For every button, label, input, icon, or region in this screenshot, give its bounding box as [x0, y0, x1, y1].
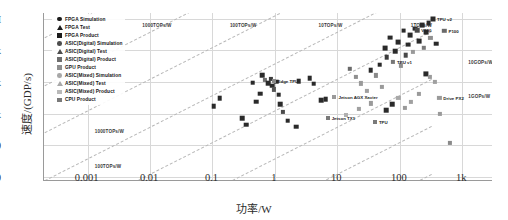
legend-label: FPGA Test: [65, 25, 90, 30]
gridline-vertical: [212, 13, 213, 180]
legend-label: GPU Product: [65, 65, 96, 70]
data-point: [404, 53, 409, 58]
data-point: [272, 87, 276, 91]
data-point: [374, 73, 378, 77]
data-point: [307, 76, 312, 81]
data-point: [426, 21, 431, 26]
legend-item[interactable]: ASIC(Digital) Test: [54, 47, 123, 55]
data-point: [368, 101, 372, 105]
legend-label: FPGA Product: [65, 33, 99, 38]
data-point: [410, 50, 414, 54]
y-tick-label: 1k: [0, 108, 1, 119]
data-point: [384, 108, 389, 113]
data-point: [432, 80, 436, 84]
data-point: [373, 120, 377, 124]
data-point: [254, 99, 259, 104]
iso-efficiency-label: 10TOPs/W: [319, 23, 343, 28]
circle-marker-icon: [54, 17, 65, 22]
chart-figure: 速度/(GDP/s) 功率/W 1000TOPs/W100TOPs/W10TOP…: [0, 0, 508, 220]
data-point: [430, 16, 435, 21]
triangle-marker-icon: [54, 81, 65, 86]
y-tick-label: 10: [0, 171, 1, 182]
data-point: [401, 28, 406, 33]
legend-item[interactable]: GPU Product: [54, 64, 123, 72]
data-point: [437, 96, 441, 100]
legend-label: ASIC(Mixed) Simulation: [65, 73, 121, 78]
data-point: [383, 45, 388, 50]
data-point: [403, 106, 407, 110]
x-tick-label: 1k: [456, 172, 467, 183]
chart-legend: FPGA SimulationFPGA TestFPGA ProductASIC…: [52, 14, 125, 105]
y-tick-label: 1M: [0, 13, 1, 24]
y-tick-mark: [43, 145, 44, 146]
x-tick-label: 100: [391, 172, 407, 183]
data-point: [244, 122, 249, 127]
data-point: [442, 28, 446, 32]
point-annotation: V100: [421, 28, 431, 33]
legend-label: ASIC(Digital) Test: [65, 49, 107, 54]
x-tick-label: 0.1: [205, 172, 218, 183]
data-point: [359, 81, 363, 85]
data-point: [438, 111, 442, 115]
data-point: [427, 75, 431, 79]
legend-item[interactable]: ASIC(Mixed) Simulation: [54, 72, 123, 80]
data-point: [250, 80, 255, 85]
point-annotation: Jetson AGX Xavier: [338, 95, 377, 100]
y-axis-label: 速度/(GDP/s): [18, 54, 34, 154]
data-point: [272, 79, 276, 83]
legend-label: FPGA Simulation: [65, 17, 106, 22]
data-point: [217, 96, 222, 101]
data-point: [390, 102, 395, 107]
legend-label: ASIC(Digital) Simulation: [65, 41, 123, 46]
data-point: [258, 91, 263, 96]
data-point: [285, 118, 290, 123]
x-axis-label: 功率/W: [0, 200, 508, 216]
data-point: [415, 28, 420, 33]
data-point: [278, 102, 283, 107]
iso-efficiency-label: 100TOPs/W: [95, 164, 122, 169]
x-tick-label: 1: [271, 172, 276, 183]
legend-item[interactable]: FPGA Simulation: [54, 15, 123, 23]
point-annotation: TPU v2: [437, 16, 452, 21]
legend-item[interactable]: ASIC(Mixed) Test: [54, 80, 123, 88]
legend-label: ASIC(Mixed) Product: [65, 89, 115, 94]
data-point: [434, 41, 439, 46]
y-tick-mark: [43, 82, 44, 83]
point-annotation: P100: [448, 28, 458, 33]
y-tick-label: 100: [0, 140, 1, 151]
data-point: [406, 42, 411, 47]
data-point: [312, 81, 317, 86]
data-point: [212, 104, 217, 109]
legend-label: ASIC(Digital) Product: [65, 57, 116, 62]
y-tick-label: 10k: [0, 76, 1, 87]
data-point: [417, 38, 422, 43]
data-point: [323, 97, 328, 102]
iso-efficiency-label: 1000TOPs/W: [142, 23, 171, 28]
legend-item[interactable]: FPGA Test: [54, 23, 123, 31]
point-annotation: Jetson TX1: [332, 116, 355, 121]
y-tick-mark: [43, 19, 44, 20]
iso-efficiency-label: 100TOPs/W: [230, 23, 257, 28]
legend-item[interactable]: FPGA Product: [54, 31, 123, 39]
data-point: [326, 116, 330, 120]
y-tick-label: 100k: [0, 45, 1, 56]
gridline-vertical: [150, 13, 151, 180]
legend-item[interactable]: ASIC(Digital) Product: [54, 55, 123, 63]
square-marker-icon: [54, 98, 65, 103]
y-tick-mark: [43, 50, 44, 51]
data-point: [276, 93, 281, 98]
legend-item[interactable]: ASIC(Mixed) Product: [54, 88, 123, 96]
iso-efficiency-label: 1000TOPs/W: [95, 129, 124, 134]
legend-item[interactable]: CPU Product: [54, 96, 123, 104]
data-point: [396, 95, 400, 99]
iso-efficiency-label: 1GOPs/W: [468, 94, 490, 99]
data-point: [388, 35, 393, 40]
point-annotation: Edge TPU: [278, 78, 299, 83]
data-point: [416, 92, 420, 96]
data-point: [348, 67, 352, 71]
legend-item[interactable]: ASIC(Digital) Simulation: [54, 39, 123, 47]
y-tick-mark: [43, 177, 44, 178]
point-annotation: TPU v1: [397, 60, 412, 65]
triangle-marker-icon: [54, 25, 65, 30]
data-point: [385, 55, 390, 60]
